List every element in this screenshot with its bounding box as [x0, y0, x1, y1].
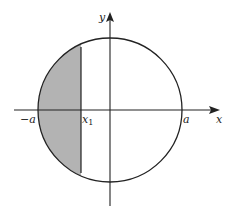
- circle-diagram: y x −a x1 a: [0, 0, 230, 210]
- y-axis-label: y: [98, 11, 106, 24]
- neg-a-label: −a: [20, 113, 36, 126]
- x-axis-label: x: [216, 113, 223, 126]
- a-label: a: [183, 113, 190, 126]
- x1-label: x1: [82, 113, 93, 127]
- shaded-region: [36, 36, 81, 186]
